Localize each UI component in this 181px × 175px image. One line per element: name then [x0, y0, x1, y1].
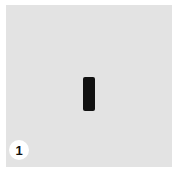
black-rectangle-shape	[83, 77, 95, 111]
step-number-badge: 1	[9, 140, 29, 160]
illustration-panel	[6, 5, 172, 167]
